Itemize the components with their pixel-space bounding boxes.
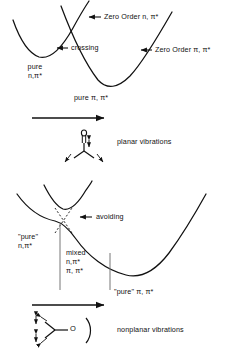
label-pure-n-pi-bottom-line2: n,π* [18,241,32,250]
label-pure-n-pi-top-line1: pure [28,62,43,71]
label-pure-n-pi-bottom-line1: "pure" [18,232,38,241]
label-pure-n-pi-top: pure n,π* [18,62,52,80]
label-zero-order-pi-pi: Zero Order π, π* [155,46,210,55]
label-crossing: crossing [71,44,99,53]
label-pure-n-pi-top-line2: n,π* [28,71,42,80]
label-mixed-region: mixed n,π* π, π* [66,248,86,275]
label-planar-vibrations: planar vibrations [117,138,171,147]
label-pure-pi-pi-bottom: "pure" π, π* [114,288,153,297]
bottom-panel-curves [17,181,206,276]
label-avoiding: avoiding [96,213,124,222]
label-mixed-line1: mixed [66,248,86,257]
label-pure-pi-pi-top: pure π, π* [74,94,108,103]
label-mixed-line3: π, π* [66,266,83,275]
carbonyl-nonplanar-sketch [36,316,91,343]
carbonyl-planar-sketch [65,130,103,162]
label-oxygen-atom-nonplanar: O [70,325,76,334]
potential-energy-surface-figure: Zero Order n, π* crossing Zero Order π, … [0,0,238,359]
label-mixed-line2: n,π* [66,257,80,266]
curve-lower-adiabatic [17,194,206,276]
curve-upper-adiabatic [44,181,92,209]
label-pure-n-pi-bottom: "pure" n,π* [18,232,38,250]
label-nonplanar-vibrations: nonplanar vibrations [117,326,184,335]
label-zero-order-n-pi: Zero Order n, π* [104,13,159,22]
